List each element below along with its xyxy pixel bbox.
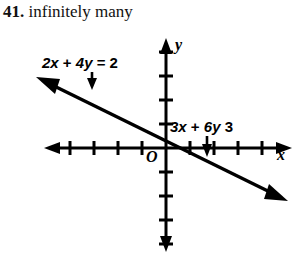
equation-2-x-term: 3x xyxy=(170,118,187,135)
equation-1-x-term: 2x xyxy=(42,54,59,71)
plotted-line xyxy=(36,77,288,201)
figure-container: 41. infinitely many xyxy=(0,0,299,258)
equation-1-equals: = xyxy=(97,54,106,71)
origin-label: O xyxy=(146,148,158,166)
line-lower-right-arrowhead xyxy=(264,184,288,201)
x-axis-left-arrowhead xyxy=(44,142,60,154)
answer-line: 41. infinitely many xyxy=(3,2,133,22)
equation-label-line-2: 3x + 6y 3 xyxy=(170,118,233,135)
line-upper-left-arrowhead xyxy=(36,77,60,94)
equation-1-y-term: 4y xyxy=(76,54,93,71)
left-label-pointer-arrow xyxy=(87,72,97,90)
equation-label-line-1: 2x + 4y = 2 xyxy=(42,54,118,71)
equation-2-constant: 3 xyxy=(225,118,233,135)
equation-1-constant: 2 xyxy=(110,54,118,71)
y-axis-label: y xyxy=(175,36,182,54)
answer-text: infinitely many xyxy=(29,2,133,21)
equation-2-y-term: 6y xyxy=(204,118,221,135)
equation-2-plus: + xyxy=(191,118,200,135)
answer-number: 41. xyxy=(3,2,24,21)
right-label-pointer-arrow xyxy=(202,136,212,157)
equation-1-plus: + xyxy=(63,54,72,71)
x-axis-label: x xyxy=(277,146,285,164)
